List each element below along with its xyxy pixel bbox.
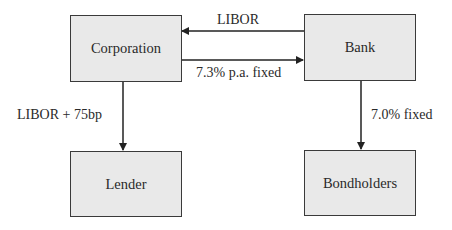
node-bondholders: Bondholders <box>304 150 416 216</box>
node-corporation-label: Corporation <box>91 40 161 57</box>
edge-label-libor: LIBOR <box>217 13 259 27</box>
edge-label-libor-plus-spread: LIBOR + 75bp <box>17 108 102 122</box>
node-bondholders-label: Bondholders <box>323 175 397 192</box>
node-corporation: Corporation <box>70 15 182 82</box>
node-lender-label: Lender <box>105 176 146 193</box>
node-bank: Bank <box>304 14 416 81</box>
edge-label-fixed-to-bank: 7.3% p.a. fixed <box>196 66 281 80</box>
node-lender: Lender <box>70 151 182 217</box>
node-bank-label: Bank <box>345 39 376 56</box>
edge-label-bond-fixed: 7.0% fixed <box>371 108 432 122</box>
